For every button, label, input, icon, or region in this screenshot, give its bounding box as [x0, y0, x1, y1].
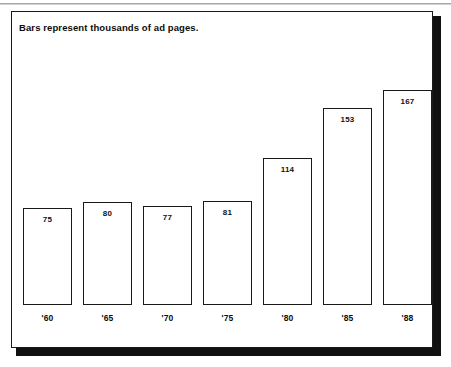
bar-group: 75	[23, 208, 72, 305]
x-axis-label-75: '75	[203, 313, 252, 323]
bar-group: 114	[263, 158, 312, 305]
bar-group: 81	[203, 201, 252, 305]
bar-value-label: 114	[264, 165, 311, 174]
bar-value-label: 77	[144, 213, 191, 222]
x-axis-label-88: '88	[383, 313, 432, 323]
bar-value-label: 81	[204, 208, 251, 217]
bar-value-label: 75	[24, 215, 71, 224]
bar-75[interactable]: 81	[203, 201, 252, 305]
bar-85[interactable]: 153	[323, 108, 372, 305]
bar-group: 77	[143, 206, 192, 305]
bar-group: 153	[323, 108, 372, 305]
x-axis-label-85: '85	[323, 313, 372, 323]
bar-60[interactable]: 75	[23, 208, 72, 305]
bar-value-label: 167	[384, 97, 431, 106]
x-axis-label-60: '60	[23, 313, 72, 323]
plot-area: 75'6080'6577'7081'75114'80153'85167'88	[11, 11, 433, 348]
bar-80[interactable]: 114	[263, 158, 312, 305]
bar-88[interactable]: 167	[383, 90, 432, 305]
x-axis-label-80: '80	[263, 313, 312, 323]
bar-value-label: 153	[324, 115, 371, 124]
scan-artifact-line-secondary	[0, 4, 451, 5]
bar-group: 167	[383, 90, 432, 305]
chart-screenshot: Bars represent thousands of ad pages. 75…	[0, 0, 451, 367]
x-axis-label-65: '65	[83, 313, 132, 323]
bar-65[interactable]: 80	[83, 202, 132, 305]
bar-70[interactable]: 77	[143, 206, 192, 305]
x-axis-label-70: '70	[143, 313, 192, 323]
bar-value-label: 80	[84, 209, 131, 218]
bar-group: 80	[83, 202, 132, 305]
